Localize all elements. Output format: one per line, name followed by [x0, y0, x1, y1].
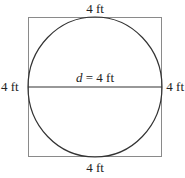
left-side-label: 4 ft — [1, 79, 19, 94]
right-side-label: 4 ft — [166, 79, 184, 94]
top-side-label: 4 ft — [86, 1, 104, 16]
diameter-label: d = 4 ft — [76, 70, 114, 85]
diameter-value: = 4 ft — [82, 70, 114, 85]
square-circle-diagram: 4 ft 4 ft 4 ft 4 ft d = 4 ft — [0, 0, 185, 178]
bottom-side-label: 4 ft — [86, 160, 104, 175]
